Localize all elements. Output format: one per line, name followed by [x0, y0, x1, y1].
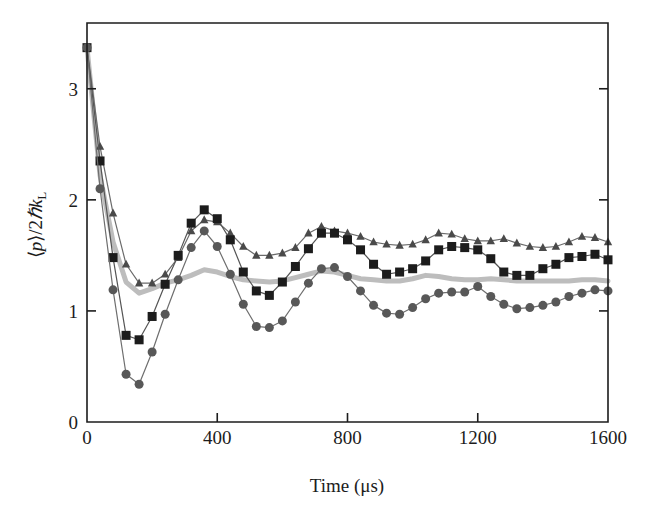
marker-circle	[187, 243, 196, 252]
marker-triangle	[122, 260, 130, 268]
marker-circle	[226, 270, 235, 279]
marker-square	[226, 235, 235, 244]
marker-triangle	[317, 222, 325, 230]
marker-square	[304, 244, 313, 253]
marker-triangle	[252, 251, 260, 259]
series-line-theory-gray	[87, 48, 608, 293]
marker-circle	[382, 309, 391, 318]
svg-text:⟨p⟩/2ℏkL: ⟨p⟩/2ℏkL	[25, 192, 49, 259]
marker-square	[239, 268, 248, 277]
marker-circle	[304, 279, 313, 288]
marker-square	[473, 245, 482, 254]
series-theory-gray	[87, 48, 608, 293]
y-tick-label: 1	[69, 301, 79, 322]
x-tick-label: 800	[333, 427, 362, 448]
marker-circle	[135, 380, 144, 389]
marker-square	[512, 271, 521, 280]
marker-circle	[512, 304, 521, 313]
marker-circle	[239, 300, 248, 309]
marker-square	[499, 268, 508, 277]
marker-triangle	[109, 209, 117, 217]
series-triangles	[83, 43, 612, 286]
marker-circle	[434, 289, 443, 298]
marker-square	[317, 229, 326, 238]
marker-circle	[343, 272, 352, 281]
marker-square	[421, 256, 430, 265]
x-tick-label: 0	[82, 427, 92, 448]
marker-square	[187, 219, 196, 228]
y-tick-label: 3	[69, 79, 79, 100]
marker-circle	[590, 285, 599, 294]
marker-circle	[96, 184, 105, 193]
marker-circle	[278, 316, 287, 325]
marker-circle	[447, 288, 456, 297]
marker-circle	[122, 370, 131, 379]
marker-square	[330, 229, 339, 238]
marker-square	[369, 260, 378, 269]
series-line-squares	[87, 48, 608, 340]
marker-square	[538, 264, 547, 273]
marker-square	[265, 291, 274, 300]
marker-circle	[174, 275, 183, 284]
marker-triangle	[200, 215, 208, 223]
marker-square	[408, 264, 417, 273]
marker-triangle	[148, 279, 156, 287]
marker-square	[395, 268, 404, 277]
series-circles	[83, 43, 613, 389]
marker-square	[382, 270, 391, 279]
series-squares	[83, 43, 613, 344]
momentum-vs-time-chart: 0400800120016000123 Time (μs) ⟨p⟩/2ℏkL	[0, 0, 665, 510]
marker-circle	[265, 323, 274, 332]
marker-square	[161, 280, 170, 289]
marker-circle	[551, 298, 560, 307]
x-tick-label: 1200	[459, 427, 497, 448]
marker-square	[434, 245, 443, 254]
y-axis-title: ⟨p⟩/2ℏkL	[25, 192, 49, 259]
marker-circle	[525, 303, 534, 312]
plot-frame	[87, 23, 608, 422]
marker-circle	[200, 226, 209, 235]
series-line-circles	[87, 48, 608, 385]
series-layer	[83, 43, 613, 389]
marker-circle	[499, 300, 508, 309]
marker-square	[122, 331, 131, 340]
x-axis-title: Time (μs)	[310, 475, 384, 497]
marker-square	[174, 251, 183, 260]
marker-circle	[564, 292, 573, 301]
marker-circle	[161, 310, 170, 319]
y-tick-label: 2	[69, 190, 79, 211]
marker-circle	[109, 285, 118, 294]
axis-ticks	[87, 89, 608, 422]
marker-square	[525, 271, 534, 280]
marker-circle	[291, 298, 300, 307]
marker-circle	[460, 288, 469, 297]
marker-square	[213, 214, 222, 223]
marker-circle	[408, 303, 417, 312]
marker-triangle	[500, 234, 508, 242]
marker-square	[564, 253, 573, 262]
marker-square	[148, 312, 157, 321]
marker-circle	[486, 292, 495, 301]
marker-circle	[252, 322, 261, 331]
marker-circle	[356, 286, 365, 295]
marker-square	[200, 205, 209, 214]
svg-text:Time (μs): Time (μs)	[310, 475, 384, 497]
marker-square	[447, 242, 456, 251]
marker-circle	[538, 301, 547, 310]
x-tick-label: 400	[203, 427, 232, 448]
x-tick-label: 1600	[589, 427, 627, 448]
marker-square	[460, 243, 469, 252]
marker-square	[291, 262, 300, 271]
marker-triangle	[421, 235, 429, 243]
marker-circle	[317, 264, 326, 273]
marker-triangle	[578, 232, 586, 240]
marker-square	[577, 252, 586, 261]
marker-circle	[577, 289, 586, 298]
axis-tick-labels: 0400800120016000123	[69, 79, 628, 448]
frame-rect	[87, 23, 608, 422]
marker-square	[135, 335, 144, 344]
marker-square	[590, 250, 599, 259]
marker-square	[551, 260, 560, 269]
figure-container: 0400800120016000123 Time (μs) ⟨p⟩/2ℏkL	[0, 0, 665, 510]
marker-square	[252, 286, 261, 295]
